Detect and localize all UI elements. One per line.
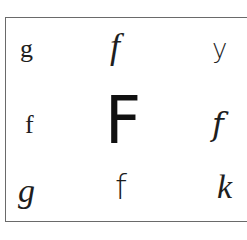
glyph-r3c2: f bbox=[115, 170, 127, 204]
glyph-r1c2: f bbox=[110, 28, 120, 64]
glyph-r2c3: f bbox=[212, 108, 224, 140]
glyph-r1c1: g bbox=[20, 36, 33, 62]
glyph-r2c1: f bbox=[25, 112, 34, 138]
glyph-r3c1: g bbox=[18, 174, 35, 208]
glyph-r3c3: k bbox=[217, 170, 232, 204]
glyph-r2c2: F bbox=[105, 88, 141, 154]
glyph-r1c3: y bbox=[212, 36, 227, 62]
